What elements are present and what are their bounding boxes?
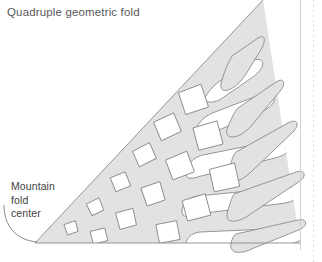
figure-title: Quadruple geometric fold	[7, 5, 140, 19]
paper-triangle-group	[35, 0, 306, 252]
callout-line-2: fold	[11, 194, 55, 208]
quadruple-geometric-fold-illustration	[0, 0, 322, 262]
figure-page: Quadruple geometric fold Mountain fold c…	[0, 0, 322, 262]
mountain-fold-center-callout: Mountain fold center	[11, 180, 55, 221]
callout-line-1: Mountain	[11, 180, 55, 194]
diamond-cutout	[156, 221, 181, 244]
callout-line-3: center	[11, 207, 55, 221]
